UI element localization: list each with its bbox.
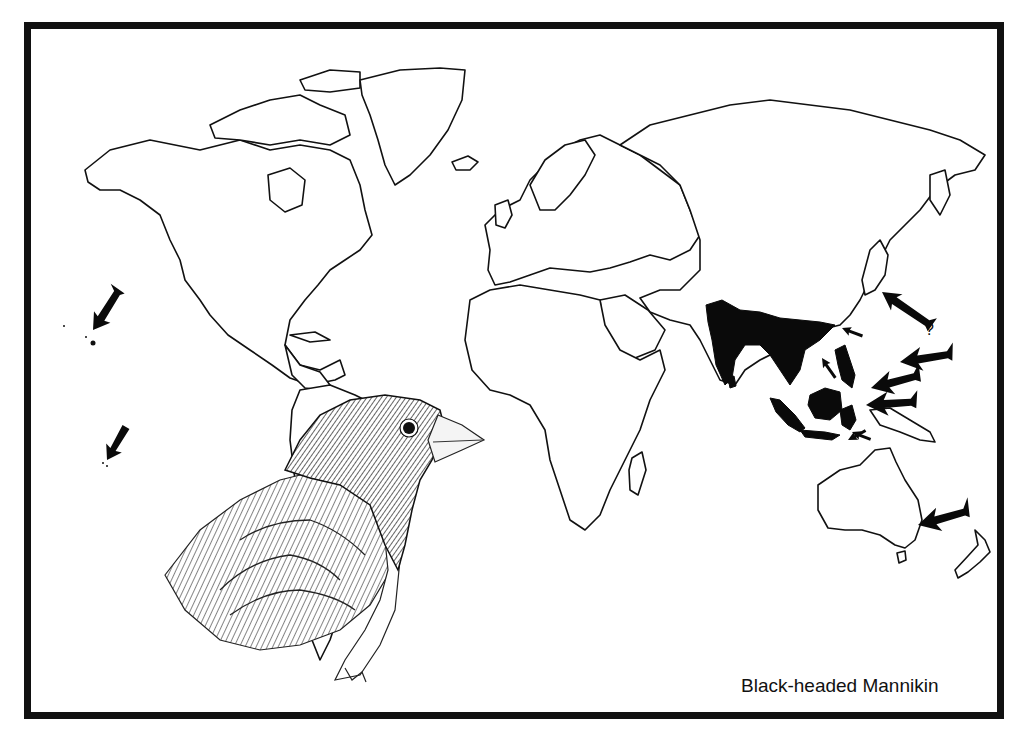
range-philippines (835, 345, 855, 388)
tasmania (897, 551, 906, 563)
hawaii-islet (85, 336, 87, 338)
bird-beak (428, 415, 484, 462)
madagascar (629, 452, 646, 495)
range-java (800, 430, 840, 440)
australia (818, 448, 922, 548)
arrow-icon (898, 342, 956, 373)
pacific-islet (106, 465, 108, 467)
map-caption: Black-headed Mannikin (741, 675, 939, 697)
pacific-islet (102, 462, 104, 464)
island-arctic-north (300, 70, 360, 92)
kamchatka (930, 170, 950, 215)
bird-eye (403, 422, 415, 434)
range-borneo (808, 388, 842, 420)
arrow-icon (840, 324, 864, 340)
uncertain-mark: ? (925, 321, 934, 338)
canadian-arctic-islands (210, 95, 350, 145)
arrow-icon (914, 497, 974, 536)
hawaii-islands (91, 341, 96, 346)
caribbean-cuba (290, 332, 330, 342)
iceland (452, 156, 478, 170)
hawaii-islet (63, 325, 65, 327)
arrow-icon (99, 423, 134, 465)
range-sulawesi (840, 405, 856, 430)
new-zealand (955, 530, 990, 578)
greenland (360, 68, 465, 185)
range-sumatra (770, 398, 805, 432)
arrow-icon (83, 284, 129, 336)
arrow-icon (818, 356, 839, 381)
new-guinea (870, 408, 935, 442)
range-sri-lanka (728, 376, 736, 388)
continent-north-america (85, 140, 372, 385)
world-range-map: ? (0, 0, 1023, 735)
